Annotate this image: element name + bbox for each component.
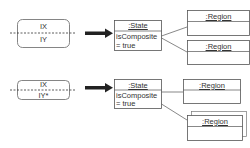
notation-bottom-label: IY* xyxy=(17,91,70,100)
notation-top-label: IX xyxy=(17,22,70,31)
region-object-name: :Region xyxy=(187,12,250,21)
link-line xyxy=(162,104,188,120)
state-object-name: :State xyxy=(114,21,162,30)
link-line xyxy=(162,27,188,36)
region-object-name: :Region xyxy=(187,117,243,126)
transform-arrow-1 xyxy=(85,29,113,39)
notation-bottom-label: IY xyxy=(17,35,70,44)
region-object-name: :Region xyxy=(183,81,241,90)
transform-arrow-2 xyxy=(85,83,113,93)
region-object-name: :Region xyxy=(187,42,250,51)
link-line xyxy=(162,38,188,52)
state-attribute-value: = true xyxy=(116,99,135,108)
state-attribute-value: = true xyxy=(116,41,135,50)
state-object-name: :State xyxy=(114,81,162,90)
notation-top-label: IX xyxy=(17,80,70,89)
